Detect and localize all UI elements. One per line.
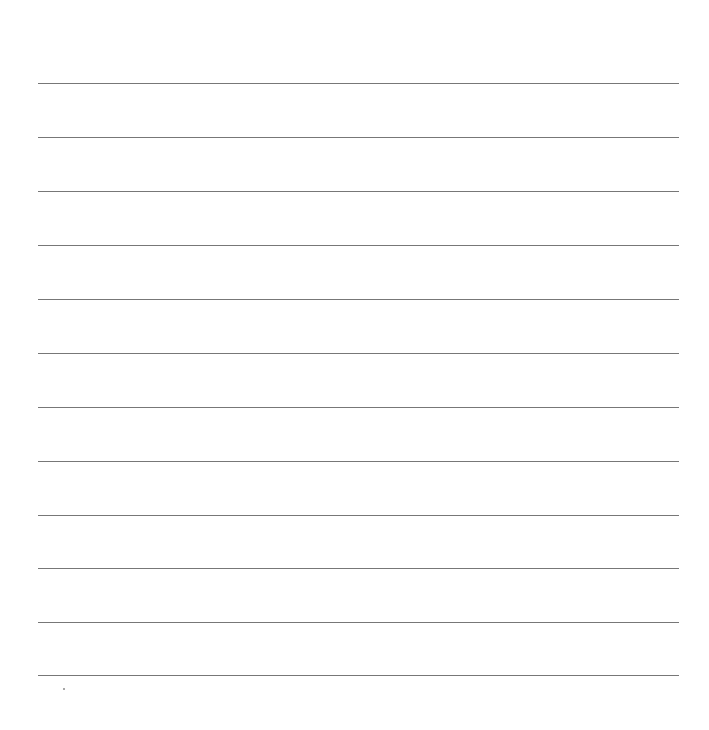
ink-speck: [63, 688, 65, 690]
ruled-line: [38, 675, 679, 676]
ruled-line: [38, 353, 679, 354]
ruled-line: [38, 461, 679, 462]
ruled-line: [38, 568, 679, 569]
lined-paper-page: [0, 0, 709, 730]
ruled-line: [38, 191, 679, 192]
ruled-line: [38, 245, 679, 246]
ruled-line: [38, 299, 679, 300]
ruled-line: [38, 137, 679, 138]
ruled-line: [38, 407, 679, 408]
ruled-line: [38, 515, 679, 516]
ruled-line: [38, 83, 679, 84]
ruled-line: [38, 622, 679, 623]
